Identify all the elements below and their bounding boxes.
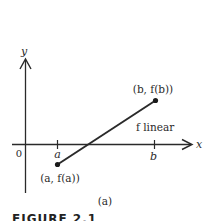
x-axis-label: x bbox=[196, 138, 203, 151]
linear-function-diagram: y x 0 a b (a, f(a)) (b, f(b)) f linear (… bbox=[0, 0, 214, 221]
line-label: f linear bbox=[136, 121, 175, 133]
origin-label: 0 bbox=[16, 148, 22, 159]
end-point-label: (b, f(b)) bbox=[133, 83, 173, 95]
y-axis-label: y bbox=[20, 45, 28, 58]
tick-b-label: b bbox=[150, 150, 157, 163]
point-b bbox=[153, 98, 158, 103]
start-point-label: (a, f(a)) bbox=[40, 172, 79, 184]
figure-label: FIGURE 2.1 bbox=[12, 213, 97, 221]
tick-a-label: a bbox=[54, 148, 61, 161]
subcaption: (a) bbox=[98, 195, 112, 207]
point-a bbox=[55, 162, 60, 167]
